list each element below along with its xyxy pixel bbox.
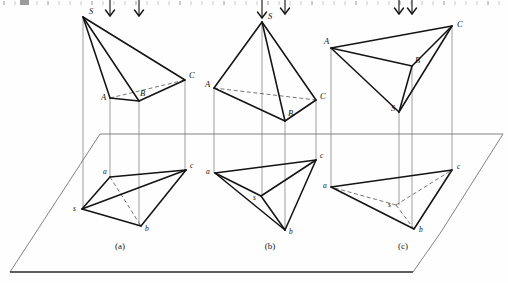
direction-arrow-b [258,0,267,18]
edge-b-SA [214,22,262,88]
edge-c-bc [414,170,452,229]
hidden-edge-a-AC [110,80,185,98]
vertex-label-b-c: c [320,151,324,160]
edge-a-SB [83,17,139,101]
drawing-canvas: SABCsabcSABCsabcSABCsabc (a)(b)(c) [0,0,508,283]
vertex-label-c-c: c [457,162,461,171]
ruler-marker [20,0,29,5]
edge-b-AB [214,88,285,121]
edge-c-AB [331,48,412,66]
direction-arrow-c [408,0,417,14]
plane-right-upper-edge [441,134,503,232]
edge-a-AB [110,98,139,101]
vertex-label-a-c: c [190,161,194,170]
edge-b-SB [262,22,285,121]
vertex-label-b-A: A [204,79,211,89]
vertex-label-a-S: S [89,6,94,16]
edge-b-SC [262,22,316,100]
vertex-label-c-s: s [388,200,391,209]
edge-c-ac [331,170,452,187]
vertex-label-a-B: B [140,88,145,98]
direction-arrows [106,0,417,18]
caption-b: (b) [265,241,276,251]
vertex-label-b-b: b [289,227,293,236]
edge-a-SC [83,17,185,80]
edge-c-BS [399,66,412,112]
projection-figure: SABCsabcSABCsabcSABCsabc (a)(b)(c) [0,0,508,283]
edge-a-BC [139,80,185,101]
vertex-label-c-C: C [457,19,463,29]
vertex-label-a-C: C [189,70,195,80]
vertex-label-a-a: a [103,167,107,176]
vertex-label-c-A: A [323,36,330,46]
figure-captions: (a)(b)(c) [115,241,408,251]
vertex-label-c-b: b [419,225,423,234]
caption-a: (a) [115,241,125,251]
vertex-label-b-s: s [253,193,256,202]
vertex-label-b-C: C [320,91,326,101]
edge-c-AS [331,48,399,112]
vertex-label-c-B: B [415,55,420,65]
vertex-label-b-S: S [268,11,273,21]
direction-arrow-b [281,0,290,14]
direction-arrow-a [106,0,115,16]
plane-right-lower-edge [413,232,441,272]
direction-arrow-c [395,0,404,14]
visible-edges [82,17,452,230]
caption-c: (c) [398,241,408,251]
hidden-edge-b-AC [214,88,316,100]
vertex-label-a-b: b [145,224,149,233]
vertex-label-a-s: s [73,204,76,213]
vertex-label-b-a: a [206,167,210,176]
edge-c-ab [331,187,414,229]
vertex-labels: SABCsabcSABCsabcSABCsabc [73,6,463,236]
edge-c-SC [399,26,452,112]
edge-b-ac [215,160,316,173]
vertex-label-a-A: A [100,92,107,102]
edge-b-ab [215,173,285,230]
top-ruler [4,0,499,5]
hidden-edge-c-sc [396,170,452,205]
hidden-edge-c-sa [331,187,396,205]
ground-plane [10,134,503,272]
vertex-label-c-a: a [323,181,327,190]
hidden-edge-c-sb [396,205,414,229]
vertex-label-b-B: B [288,108,293,118]
edge-a-SA [83,17,110,98]
